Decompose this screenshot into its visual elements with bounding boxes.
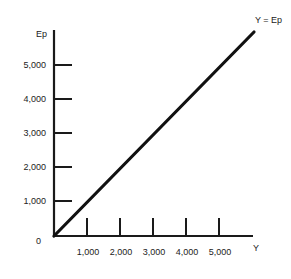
x-tick-labels: 1,000 2,000 3,000 4,000 5,000 bbox=[77, 247, 232, 257]
y-tick-label: 4,000 bbox=[23, 94, 46, 104]
y-tick-label: 5,000 bbox=[23, 60, 46, 70]
x-axis-title: Y bbox=[253, 243, 259, 253]
x-ticks bbox=[87, 218, 219, 236]
x-tick-label: 3,000 bbox=[143, 247, 166, 257]
line-annotation: Y = Ep bbox=[255, 15, 282, 25]
y-axis-title: Ep bbox=[36, 29, 47, 39]
x-tick-label: 4,000 bbox=[176, 247, 199, 257]
chart-canvas: 1,000 2,000 3,000 4,000 5,000 1,000 2,00… bbox=[0, 0, 291, 279]
y-tick-label: 2,000 bbox=[23, 162, 46, 172]
series-line-y-equals-ep bbox=[54, 32, 254, 236]
y-ticks bbox=[54, 65, 72, 201]
x-tick-label: 1,000 bbox=[77, 247, 100, 257]
y-tick-labels: 1,000 2,000 3,000 4,000 5,000 bbox=[23, 60, 46, 206]
y-tick-label: 1,000 bbox=[23, 196, 46, 206]
x-tick-label: 5,000 bbox=[209, 247, 232, 257]
y-tick-label: 3,000 bbox=[23, 128, 46, 138]
x-tick-label: 2,000 bbox=[110, 247, 133, 257]
origin-label: 0 bbox=[36, 236, 41, 246]
